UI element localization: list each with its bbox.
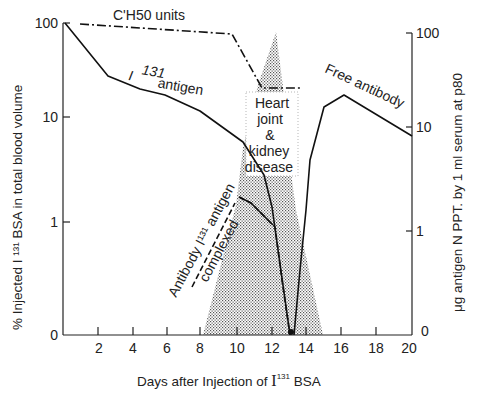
ch50-label: C'H50 units bbox=[113, 7, 185, 23]
x-tick-18: 18 bbox=[368, 340, 384, 356]
y-right-tick-0: 0 bbox=[421, 323, 429, 339]
svg-text:I: I bbox=[127, 67, 134, 83]
y-left-tick-0: 0 bbox=[50, 327, 58, 343]
svg-text:Heart: Heart bbox=[255, 95, 289, 111]
y-left-tick-1: 1 bbox=[50, 214, 58, 230]
x-tick-20: 20 bbox=[401, 340, 417, 356]
x-tick-10: 10 bbox=[229, 340, 245, 356]
svg-text:&: & bbox=[265, 127, 275, 143]
y-left-tick-100: 100 bbox=[35, 15, 59, 31]
y-left-tick-10: 10 bbox=[42, 109, 58, 125]
right-axis bbox=[406, 33, 412, 335]
y-right-tick-10: 10 bbox=[416, 119, 432, 135]
x-tick-12: 12 bbox=[264, 340, 280, 356]
chart-canvas: 100 10 1 0 100 10 1 0 2 4 6 8 10 12 14 1… bbox=[0, 0, 478, 396]
y-right-tick-1: 1 bbox=[416, 223, 424, 239]
free-antibody-label: Free antibody bbox=[323, 60, 407, 111]
x-tick-2: 2 bbox=[95, 340, 103, 356]
x-tick-6: 6 bbox=[163, 340, 171, 356]
x-tick-14: 14 bbox=[298, 340, 314, 356]
left-axis bbox=[63, 23, 70, 335]
svg-text:joint: joint bbox=[256, 111, 283, 127]
svg-text:kidney: kidney bbox=[249, 143, 289, 159]
disease-shaded-region bbox=[203, 32, 323, 335]
svg-text:Free antibody: Free antibody bbox=[323, 60, 407, 111]
x-axis bbox=[63, 327, 412, 335]
trough-marker bbox=[288, 329, 294, 335]
svg-text:Days after Injection of I131 B: Days after Injection of I131 BSA bbox=[137, 372, 321, 389]
y-right-tick-100: 100 bbox=[416, 25, 440, 41]
x-tick-4: 4 bbox=[129, 340, 137, 356]
y-right-axis-title: μg antigen N PPT. by 1 ml serum at p80 bbox=[450, 73, 465, 312]
antigen-label: I 131 antigen bbox=[127, 59, 206, 98]
x-tick-8: 8 bbox=[196, 340, 204, 356]
svg-text:disease: disease bbox=[245, 159, 293, 175]
y-left-axis-title: % Injected I ¹³¹ BSA in total blood volu… bbox=[10, 85, 25, 330]
x-axis-title: Days after Injection of I131 BSA bbox=[137, 372, 321, 389]
x-tick-16: 16 bbox=[333, 340, 349, 356]
